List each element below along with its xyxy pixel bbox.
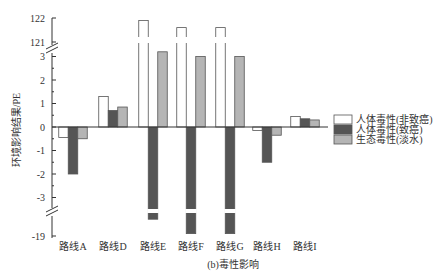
bar-break-gap (185, 209, 197, 213)
bar (158, 52, 168, 127)
bar (262, 127, 272, 162)
bar (253, 127, 263, 131)
x-category-label: 路线F (178, 240, 204, 252)
y-tick-label: 2 (40, 75, 45, 86)
bar (139, 20, 149, 127)
bar (291, 116, 301, 127)
bar (78, 127, 88, 139)
bar-break-gap (147, 209, 159, 213)
y-tick-label: 122 (30, 13, 45, 24)
y-tick-label: 3 (40, 51, 45, 62)
y-tick-label: -3 (37, 192, 45, 203)
bar-break-gap (215, 37, 227, 43)
bar-break-gap (224, 209, 236, 213)
chart-caption: (b)毒性影响 (207, 258, 259, 271)
legend-label: 生态毒性(淡水) (356, 133, 423, 146)
y-tick-label: -2 (37, 169, 45, 180)
bar (235, 57, 245, 128)
x-category-label: 路线G (216, 240, 243, 252)
x-category-label: 路线H (253, 240, 280, 252)
bar (186, 127, 196, 234)
legend-swatch (334, 125, 352, 134)
bar (225, 127, 235, 234)
bar-break-gap (138, 37, 150, 43)
bar (310, 120, 320, 127)
legend: 人体毒性(非致癌)人体毒性(致癌)生态毒性(淡水) (334, 113, 433, 146)
y-tick-label: 1 (40, 98, 45, 109)
y-axis-label: 环境影响结果/PE (10, 93, 22, 167)
bar (59, 127, 69, 138)
bar (272, 127, 282, 135)
category-labels: 路线A路线D路线E路线F路线G路线H路线I (59, 240, 316, 252)
y-tick-label: 121 (30, 37, 45, 48)
y-tick-label: -1 (37, 145, 45, 156)
legend-swatch (334, 135, 352, 144)
bar (300, 119, 310, 127)
bar-break-gap (176, 37, 188, 43)
bar (118, 107, 128, 127)
x-category-label: 路线E (140, 240, 166, 252)
toxicity-bar-chart: 1221213210-1-2-3-19 路线A路线D路线E路线F路线G路线H路线… (0, 0, 439, 275)
bar (196, 57, 206, 128)
y-tick-label: -19 (32, 231, 45, 242)
y-tick-label: 0 (40, 122, 45, 133)
x-category-label: 路线A (59, 240, 87, 252)
legend-swatch (334, 115, 352, 124)
bar (68, 127, 78, 174)
x-category-label: 路线I (293, 240, 316, 252)
bar (99, 96, 109, 127)
bar (108, 111, 118, 127)
bar (148, 127, 158, 219)
x-category-label: 路线D (99, 240, 126, 252)
